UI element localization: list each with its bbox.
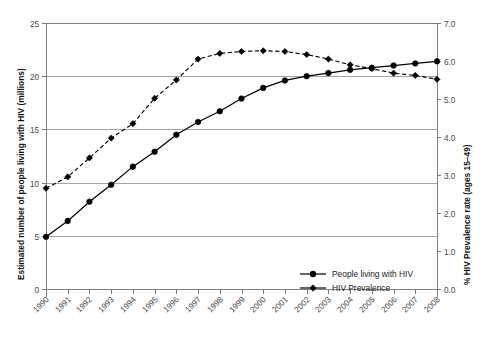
- y-axis-left-tick-labels: 0510152025: [30, 20, 46, 295]
- svg-text:4.0: 4.0: [444, 134, 456, 143]
- svg-text:2004: 2004: [336, 295, 356, 315]
- svg-text:2.0: 2.0: [444, 210, 456, 219]
- svg-text:7.0: 7.0: [444, 20, 456, 29]
- data-point: [282, 78, 288, 84]
- data-point: [43, 185, 49, 191]
- data-point: [304, 73, 310, 79]
- svg-text:1999: 1999: [228, 295, 248, 315]
- data-point: [260, 48, 266, 54]
- series-line-1: [46, 51, 437, 189]
- data-point: [108, 182, 114, 188]
- series-line-0: [46, 61, 437, 237]
- svg-text:15: 15: [30, 126, 40, 135]
- data-point: [325, 56, 331, 62]
- svg-text:1992: 1992: [75, 295, 95, 315]
- legend-label-0: People living with HIV: [332, 269, 413, 279]
- svg-text:1997: 1997: [184, 295, 204, 315]
- data-point: [347, 62, 353, 68]
- data-point: [260, 85, 266, 91]
- data-point: [282, 48, 288, 54]
- figure-caption: [34, 345, 464, 356]
- data-point: [304, 51, 310, 57]
- svg-text:2000: 2000: [249, 295, 269, 315]
- svg-text:1991: 1991: [54, 295, 74, 315]
- legend-marker-1: [310, 285, 316, 291]
- y-axis-left-title: Estimated number of people living with H…: [16, 68, 26, 280]
- svg-text:1.0: 1.0: [444, 248, 456, 257]
- data-point: [434, 59, 440, 65]
- data-point: [239, 96, 245, 102]
- hiv-trend-chart: 0510152025 0.01.02.03.04.05.06.07.0 1990…: [0, 0, 486, 356]
- legend-label-1: HIV Prevalence: [332, 283, 391, 293]
- svg-text:5.0: 5.0: [444, 96, 456, 105]
- data-point: [87, 199, 93, 205]
- svg-text:0: 0: [34, 286, 39, 295]
- x-axis-tick-labels: 1990199119921993199419951996199719981999…: [32, 295, 443, 315]
- data-point: [326, 70, 332, 76]
- data-point: [174, 132, 180, 138]
- svg-text:1998: 1998: [206, 295, 226, 315]
- svg-text:5: 5: [34, 233, 39, 242]
- data-point: [412, 72, 418, 78]
- svg-text:2002: 2002: [293, 295, 313, 315]
- svg-text:1990: 1990: [32, 295, 52, 315]
- svg-text:2003: 2003: [314, 295, 334, 315]
- y-axis-right-title: % HIV Prevalence rate (ages 15–49): [462, 144, 472, 285]
- data-point: [390, 70, 396, 76]
- svg-text:1994: 1994: [119, 295, 139, 315]
- data-point: [434, 76, 440, 82]
- data-point: [391, 63, 397, 69]
- data-point: [43, 234, 49, 240]
- svg-text:2001: 2001: [271, 295, 291, 315]
- svg-text:2007: 2007: [401, 295, 421, 315]
- svg-text:2008: 2008: [423, 295, 443, 315]
- svg-text:1993: 1993: [97, 295, 117, 315]
- svg-text:25: 25: [30, 20, 40, 29]
- svg-text:20: 20: [30, 73, 40, 82]
- legend-marker-0: [310, 271, 316, 277]
- svg-text:2005: 2005: [358, 295, 378, 315]
- data-point: [217, 109, 223, 115]
- data-point: [195, 119, 201, 125]
- data-point: [65, 218, 71, 224]
- data-point: [238, 48, 244, 54]
- data-point: [108, 135, 114, 141]
- svg-text:0.0: 0.0: [444, 286, 456, 295]
- chart-figure: 0510152025 0.01.02.03.04.05.06.07.0 1990…: [0, 0, 486, 356]
- svg-text:2006: 2006: [380, 295, 400, 315]
- svg-text:6.0: 6.0: [444, 58, 456, 67]
- data-point: [217, 50, 223, 56]
- axis-lines: [46, 23, 438, 297]
- data-point: [130, 164, 136, 170]
- data-point: [152, 149, 158, 155]
- gridlines: [46, 24, 437, 237]
- svg-text:1996: 1996: [162, 295, 182, 315]
- svg-text:1995: 1995: [141, 295, 161, 315]
- svg-text:3.0: 3.0: [444, 172, 456, 181]
- svg-text:10: 10: [30, 180, 40, 189]
- data-point: [412, 61, 418, 67]
